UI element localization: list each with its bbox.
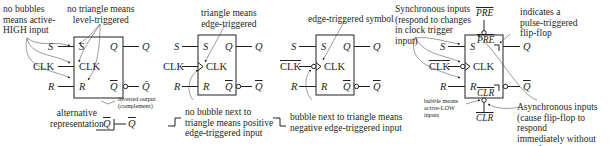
ff4-inner-s: S	[470, 41, 475, 52]
ff3-input-clkbar: CLK	[280, 61, 301, 72]
annotation-bubble-next: bubble next to triangle means negative e…	[290, 112, 402, 133]
ff1-inner-s: S	[79, 41, 84, 52]
ff2-inner-r: R	[203, 81, 209, 92]
ff4-output-qbar: Q	[523, 81, 531, 92]
ff3-input-r: R	[291, 81, 297, 92]
annotation-no-triangle: no triangle means level-triggered	[67, 4, 135, 25]
ff3-inner-r: R	[321, 81, 327, 92]
ff3-inner-qbar: Q	[343, 81, 351, 92]
ff4-output-q: Q	[523, 41, 531, 52]
annotation-triangle: triangle means edge-triggered	[201, 8, 257, 29]
ff3-inner-s: S	[321, 41, 326, 52]
annotation-edge-symbol: edge-triggered symbol	[308, 14, 394, 25]
ff3-inner-q: Q	[343, 41, 351, 52]
ff2-inner-q: Q	[225, 41, 233, 52]
rising-edge-icon	[168, 118, 181, 126]
ff1-inner-r: R	[79, 81, 85, 92]
ff1-inner-clk: CLK	[79, 61, 100, 72]
ff2-input-clk: CLK	[163, 61, 184, 72]
ff1-input-clk: CLK	[33, 61, 54, 72]
ff4-input-pre: PRE	[476, 8, 493, 19]
ff2-edge-triangle	[198, 63, 203, 71]
ff3-clock-bubble	[312, 64, 316, 68]
ff2-input-s: S	[174, 41, 179, 52]
ff2-output-q: Q	[255, 41, 263, 52]
annotation-bubble-active-low: bubble means active-LOW inputs	[424, 97, 458, 118]
ff4-inner-pre: PRE	[477, 35, 494, 46]
ff4-inner-clk: CLK	[473, 61, 494, 72]
ff2-inner-s: S	[203, 41, 208, 52]
ff1-input-r: R	[48, 81, 54, 92]
ff2-input-r: R	[174, 81, 180, 92]
annotation-synchronous: Synchronous inputs (respond to changes i…	[395, 4, 471, 46]
ff3-output-q: Q	[373, 41, 381, 52]
annotation-inverted-output: inverted output (complement)	[118, 95, 156, 109]
ff3-input-s: S	[291, 41, 296, 52]
annotation-pulse: indicates a pulse-triggered flip-flop	[520, 7, 578, 39]
ff2-output-qbar: Q	[255, 81, 263, 92]
ff1-output-qbar: Q̄	[142, 81, 150, 92]
ff4-inner-clr: CLR	[477, 88, 494, 99]
alt-inner-q: Q	[103, 118, 111, 129]
ff1-output-bubble	[123, 84, 127, 88]
ff2-inner-qbar: Q	[225, 81, 233, 92]
ff1-inner-q: Q	[110, 41, 118, 52]
ff4-input-clkbar: CLK	[429, 61, 450, 72]
annotation-no-bubble-next: no bubble next to triangle means positiv…	[185, 107, 273, 139]
ff1-input-s: S	[48, 41, 53, 52]
ff1-output-q: Q	[142, 41, 150, 52]
ff1-inner-qbar: Q	[110, 81, 118, 92]
ff4-input-s: S	[440, 41, 445, 52]
ff4-input-clr: CLR	[476, 113, 493, 124]
ff3-inner-clk: CLK	[324, 61, 345, 72]
ff3-output-qbar: Q	[373, 81, 381, 92]
ff4-input-r: R	[440, 81, 446, 92]
annotation-no-bubbles: no bubbles means active- HIGH input	[3, 4, 56, 36]
falling-edge-icon	[273, 118, 286, 126]
ff4-inner-r: R	[470, 81, 476, 92]
annotation-alternative: alternative representation	[50, 108, 104, 129]
ff2-inner-clk: CLK	[206, 61, 227, 72]
alt-output-q: Q	[128, 118, 136, 129]
annotation-asynchronous: Asynchronous inputs (cause flip-flop to …	[517, 102, 614, 146]
